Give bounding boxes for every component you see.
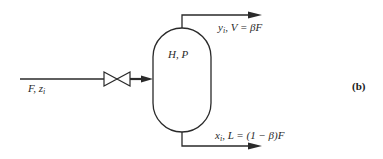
vapor-outlet-label: yi, V = βF xyxy=(217,21,263,35)
panel-label: (b) xyxy=(352,80,366,93)
flash-drum-diagram: F, zi H, P yi, V = βF xi, L = (1 − β)F (… xyxy=(0,0,383,159)
feed-arrowhead-icon xyxy=(141,76,153,83)
feed-label: F, zi xyxy=(27,82,45,96)
liquid-arrowhead-icon xyxy=(248,143,262,150)
vapor-arrowhead-icon xyxy=(248,12,262,19)
flash-vessel xyxy=(153,28,211,132)
vessel-label: H, P xyxy=(167,48,188,60)
valve-icon xyxy=(104,72,130,86)
liquid-outlet-label: xi, L = (1 − β)F xyxy=(214,129,285,143)
